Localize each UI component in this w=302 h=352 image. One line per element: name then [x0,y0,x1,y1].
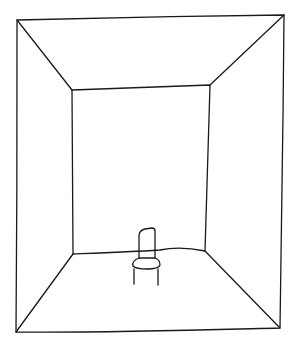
chair-back [139,228,155,258]
outer-frame [16,15,284,332]
edge-bottom-left [16,254,73,332]
chair-seat [133,258,160,269]
edge-bottom-right [205,251,280,328]
edge-top-left [17,20,72,90]
chair [133,228,160,285]
room-drawing [0,0,302,352]
edge-top-right [210,15,284,85]
back-wall [72,85,210,254]
